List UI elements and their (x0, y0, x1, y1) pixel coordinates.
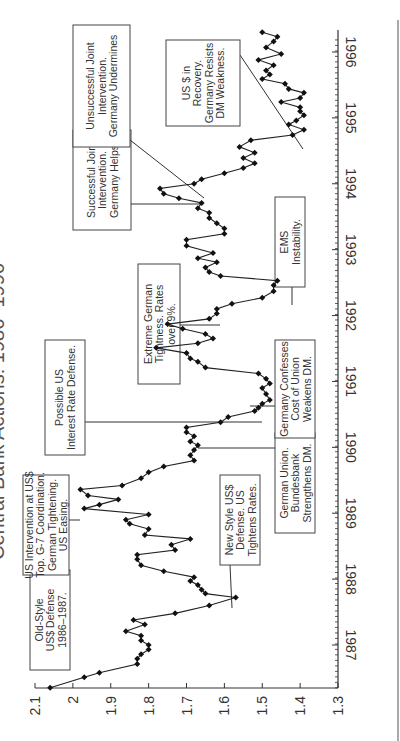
data-point-marker (286, 121, 292, 127)
annotation-box: Extreme GermanTightness. Ratesover 9%. (138, 264, 220, 384)
data-point-marker (96, 670, 102, 676)
data-point-marker (138, 633, 144, 639)
value-tick-label: 1.3 (330, 696, 346, 716)
data-point-marker (176, 195, 182, 201)
data-point-marker (218, 273, 224, 279)
data-point-marker (142, 532, 148, 538)
annotation-text: Weakens DM. (301, 356, 313, 422)
data-point-marker (187, 536, 193, 542)
annotation-text: Tightens Rates. (246, 483, 258, 556)
data-point-marker (172, 610, 178, 616)
data-point-marker (252, 150, 258, 156)
annotation-text: Recovery. (191, 60, 203, 107)
data-point-marker (81, 506, 87, 512)
data-point-marker (81, 674, 87, 680)
annotation-box: Old-StyleUS$ Defense1986–1987. (30, 570, 70, 670)
data-point-marker (199, 176, 205, 182)
annotation-text: Tightness. Rates (153, 285, 165, 363)
annotation-text: Instability. (290, 219, 302, 265)
data-point-marker (191, 181, 197, 187)
time-tick-label: 1993 (343, 234, 359, 265)
annotation-text: US$ Defense (44, 589, 56, 652)
data-point-marker (248, 137, 254, 143)
data-point-marker (119, 483, 125, 489)
data-point-marker (184, 237, 190, 243)
annotation-text: Germany Undermines (107, 35, 119, 138)
annotation-box: US $ inRecovery.Germany ResistsDM Weakne… (166, 40, 303, 149)
data-point-marker (240, 165, 246, 171)
data-point-marker (146, 512, 152, 518)
annotation-text: New Style US$ (223, 485, 235, 556)
annotation-text: Intervention. (96, 57, 108, 115)
data-point-marker (161, 463, 167, 469)
data-point-marker (96, 502, 102, 508)
annotation-text: US $ in (180, 66, 192, 101)
annotation-text: US Easing. (57, 499, 69, 552)
data-point-marker (229, 301, 235, 307)
data-point-marker (206, 602, 212, 608)
annotation-text: Extreme German (142, 284, 154, 364)
time-tick-label: 1995 (343, 102, 359, 133)
annotation-text: 1986–1987. (56, 592, 68, 647)
data-point-marker (210, 250, 216, 256)
annotation-box: Germany ConfessesCost of UnionWeakens DM… (250, 340, 315, 438)
annotation-text: Strengthens DM. (301, 444, 313, 523)
data-point-marker (259, 385, 265, 391)
data-point-marker (259, 76, 265, 82)
value-tick-label: 1.4 (292, 696, 308, 716)
annotation-text: Germany Helps. (108, 142, 120, 218)
time-tick-label: 1989 (343, 498, 359, 529)
data-point-marker (161, 568, 167, 574)
data-point-marker (267, 397, 273, 403)
data-point-marker (210, 336, 216, 342)
annotation-text: Possible US (53, 369, 65, 426)
data-point-marker (123, 628, 129, 634)
data-point-marker (221, 231, 227, 237)
time-tick-label: 1988 (343, 564, 359, 595)
data-point-marker (202, 331, 208, 337)
annotation-text: Top. G-7 Coordination. (34, 472, 46, 578)
annotation-text: Interest Rate Defense. (65, 345, 77, 450)
data-point-marker (278, 51, 284, 57)
annotation-text: Unsuccessful Joint (84, 42, 96, 130)
data-point-marker (214, 259, 220, 265)
annotation-text: Old-Style (33, 598, 45, 641)
data-point-marker (271, 288, 277, 294)
data-point-marker (138, 562, 144, 568)
value-tick-label: 1.9 (103, 696, 119, 716)
time-tick-label: 1990 (343, 432, 359, 463)
data-point-marker (146, 526, 152, 532)
annotation-text: Cost of Union (289, 357, 301, 421)
data-point-marker (214, 306, 220, 312)
data-point-marker (195, 255, 201, 261)
annotation-text: Bundesbank (289, 453, 301, 512)
annotation-text: German Tightening. (46, 479, 58, 571)
annotation-text: EMS (278, 231, 290, 254)
value-tick-label: 2 (65, 696, 81, 704)
annotations: Old-StyleUS$ Defense1986–1987.New Style … (23, 25, 315, 670)
data-point-marker (115, 496, 121, 502)
chart: Central Bank Actions: 1986–1996 2.121.91… (0, 0, 400, 741)
value-tick-label: 1.8 (141, 696, 157, 716)
data-point-marker (130, 617, 136, 623)
time-tick-label: 1996 (343, 36, 359, 67)
data-point-marker (255, 57, 261, 63)
annotation-text: Successful Joint (85, 142, 97, 218)
data-point-marker (252, 160, 258, 166)
annotation-leader-line (130, 140, 204, 198)
data-point-marker (146, 642, 152, 648)
data-point-marker (184, 243, 190, 249)
data-point-marker (134, 552, 140, 558)
data-point-marker (233, 595, 239, 601)
data-point-marker (180, 326, 186, 332)
data-point-marker (297, 104, 303, 110)
data-point-marker (184, 425, 190, 431)
data-point-marker (237, 144, 243, 150)
data-point-marker (259, 295, 265, 301)
annotation-text: Germany Confesses (278, 341, 290, 437)
annotation-text: US Intervention at US$ (23, 471, 35, 579)
chart-title-text: Central Bank Actions: 1986–1996 (0, 263, 8, 560)
annotation-text: Germany Resists (203, 43, 215, 124)
data-point-marker (259, 29, 265, 35)
time-tick-label: 1987 (343, 629, 359, 660)
